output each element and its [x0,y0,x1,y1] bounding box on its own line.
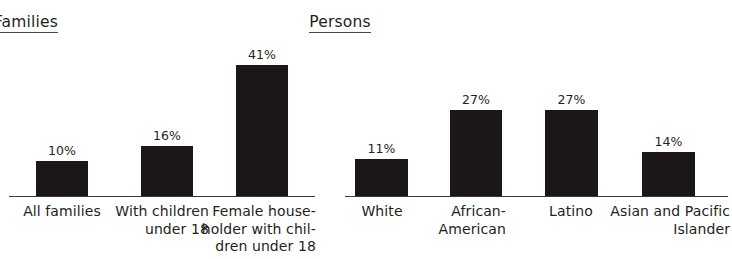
chart-panel-families: Families 10% 16% 41% All families With c… [0,0,330,259]
category-label-white: White [346,203,418,221]
bar-value-african-american: 27% [450,92,502,107]
x-axis-line-persons [345,196,728,197]
bar-female-householder [236,65,288,196]
bar-value-asian-pacific-islander: 14% [642,134,695,149]
bar-african-american [450,110,502,196]
category-label-asian-pacific-islander: Asian and Pacific Islander [608,203,730,238]
plot-area-persons: 11% 27% 27% 14% [340,0,732,198]
x-axis-line-families [9,196,315,197]
bar-value-female-householder: 41% [236,47,288,62]
bar-value-all-families: 10% [36,143,88,158]
chart-panel-persons: Persons 11% 27% 27% 14% White African- A… [340,0,732,259]
bar-with-children-under-18 [141,146,193,196]
bar-asian-pacific-islander [642,152,695,196]
bar-chart-figure: Families 10% 16% 41% All families With c… [0,0,732,259]
bar-value-white: 11% [355,141,408,156]
category-label-african-american: African- American [418,203,506,238]
bar-white [355,159,408,196]
bar-value-with-children-under-18: 16% [141,128,193,143]
bar-value-latino: 27% [545,92,598,107]
bar-latino [545,110,598,196]
category-label-latino: Latino [535,203,607,221]
bar-all-families [36,161,88,196]
category-label-female-householder: Female house- holder with chil- dren und… [192,203,316,256]
